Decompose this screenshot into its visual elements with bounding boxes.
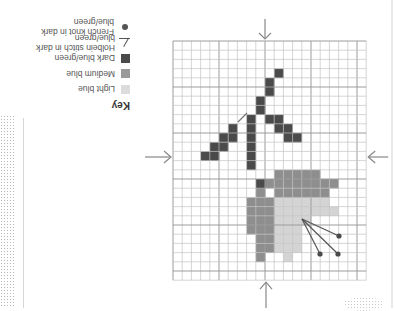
medium-stitch-cell [256, 188, 265, 198]
dark-stitch-cell [247, 115, 257, 125]
medium-stitch-cell [311, 179, 321, 189]
medium-stitch-cell [293, 179, 303, 189]
medium-stitch-cell [311, 170, 321, 180]
light-stitch-cell [274, 243, 284, 253]
medium-stitch-cell [274, 179, 284, 189]
dark-stitch-cell [228, 124, 238, 134]
medium-stitch-cell [283, 170, 293, 180]
medium-stitch-cell [265, 234, 275, 244]
dark-stitch-cell [247, 133, 257, 143]
medium-stitch-cell [320, 179, 330, 189]
dark-stitch-cell [247, 124, 257, 134]
light-stitch-cell [274, 225, 284, 235]
medium-stitch-cell [256, 197, 265, 207]
dark-stitch-cell [265, 87, 275, 97]
medium-stitch-cell [265, 197, 275, 207]
medium-stitch-cell [293, 188, 303, 198]
light-stitch-cell [320, 197, 330, 207]
medium-stitch-cell [311, 188, 321, 198]
dark-stitch-cell [228, 133, 238, 143]
medium-stitch-cell [265, 243, 275, 253]
dark-stitch-cell [265, 78, 275, 88]
french-knot-icon [317, 251, 322, 256]
dark-stitch-cell [265, 115, 275, 125]
dark-stitch-cell [256, 96, 265, 106]
light-stitch-cell [293, 216, 303, 226]
medium-stitch-cell [256, 234, 265, 244]
dark-stitch-cell [256, 105, 265, 115]
medium-stitch-cell [256, 207, 265, 217]
medium-stitch-cell [256, 243, 265, 253]
dark-stitch-cell [274, 115, 284, 125]
light-stitch-cell [274, 197, 284, 207]
light-stitch-cell [283, 243, 293, 253]
medium-stitch-cell [302, 170, 312, 180]
medium-stitch-cell [265, 225, 275, 235]
medium-stitch-cell [256, 225, 265, 235]
dark-stitch-cell [210, 142, 220, 152]
dark-stitch-cell [219, 142, 229, 152]
dark-stitch-cell [219, 133, 229, 143]
dark-stitch-cell [274, 124, 284, 134]
light-stitch-cell [293, 225, 303, 235]
medium-stitch-cell [247, 207, 257, 217]
medium-stitch-cell [302, 188, 312, 198]
dark-stitch-cell [283, 124, 293, 134]
dark-stitch-cell [283, 133, 293, 143]
next-page-texture [344, 297, 384, 311]
light-stitch-cell [302, 197, 312, 207]
medium-stitch-cell [265, 207, 275, 217]
french-knot-icon [336, 233, 341, 238]
light-stitch-cell [283, 197, 293, 207]
medium-stitch-cell [247, 216, 257, 226]
dark-stitch-cell [247, 142, 257, 152]
light-stitch-cell [283, 207, 293, 217]
light-stitch-cell [283, 225, 293, 235]
medium-stitch-cell [265, 179, 275, 189]
medium-stitch-cell [283, 179, 293, 189]
medium-stitch-cell [293, 170, 303, 180]
dark-stitch-cell [247, 151, 257, 161]
medium-stitch-cell [329, 179, 339, 189]
medium-stitch-cell [274, 188, 284, 198]
light-stitch-cell [283, 216, 293, 226]
medium-stitch-cell [247, 197, 257, 207]
light-stitch-cell [274, 216, 284, 226]
light-stitch-cell [329, 207, 339, 217]
dark-stitch-cell [274, 69, 284, 79]
light-stitch-cell [311, 197, 321, 207]
dark-stitch-cell [210, 151, 220, 161]
light-stitch-cell [274, 207, 284, 217]
medium-stitch-cell [320, 188, 330, 198]
light-stitch-cell [293, 197, 303, 207]
medium-stitch-cell [302, 179, 312, 189]
medium-stitch-cell [256, 253, 265, 263]
dark-stitch-cell [256, 179, 265, 189]
light-stitch-cell [274, 234, 284, 244]
dark-stitch-cell [247, 161, 257, 171]
light-stitch-cell [283, 234, 293, 244]
medium-stitch-cell [274, 170, 284, 180]
medium-stitch-cell [265, 216, 275, 226]
light-stitch-cell [293, 207, 303, 217]
light-stitch-cell [283, 253, 293, 263]
light-stitch-cell [302, 207, 312, 217]
dark-stitch-cell [293, 133, 303, 143]
light-stitch-cell [293, 234, 303, 244]
light-stitch-cell [311, 207, 321, 217]
dark-stitch-cell [201, 151, 211, 161]
french-knot-icon [335, 251, 340, 256]
light-stitch-cell [320, 207, 330, 217]
medium-stitch-cell [283, 188, 293, 198]
medium-stitch-cell [247, 225, 257, 235]
medium-stitch-cell [256, 216, 265, 226]
light-stitch-cell [293, 243, 303, 253]
